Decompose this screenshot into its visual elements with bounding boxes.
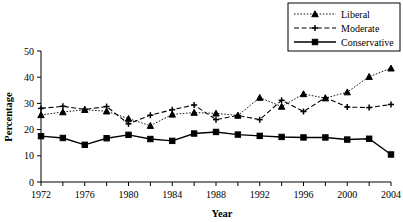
data-point (148, 136, 153, 141)
x-axis-label: Year (212, 208, 233, 219)
data-point (60, 109, 66, 115)
series-line (41, 132, 391, 155)
data-point (191, 131, 196, 136)
data-point (147, 122, 153, 128)
x-tick-label: 2000 (337, 189, 357, 200)
data-point (345, 137, 350, 142)
legend-marker (312, 39, 317, 44)
x-tick-label: 2004 (381, 189, 401, 200)
data-point (213, 110, 219, 116)
data-point (323, 135, 328, 140)
chart-container: 01020304050 1972197619801984198819921996… (0, 0, 403, 222)
y-tick-label: 0 (29, 177, 34, 188)
data-point (235, 132, 240, 137)
x-tick-label: 1976 (75, 189, 95, 200)
y-axis-label: Percentage (3, 92, 14, 142)
data-point (257, 133, 262, 138)
data-point (125, 115, 131, 121)
y-tick-label: 10 (24, 150, 34, 161)
y-tick-label: 20 (24, 124, 34, 135)
data-point (278, 103, 284, 109)
data-point (388, 65, 394, 71)
x-tick-label: 1972 (31, 189, 51, 200)
series-conservative (38, 129, 393, 157)
data-point (344, 89, 350, 95)
y-tick-label: 50 (24, 46, 34, 57)
data-point (301, 135, 306, 140)
data-point (170, 138, 175, 143)
chart-legend: LiberalModerateConservative (288, 3, 400, 51)
data-point (60, 135, 65, 140)
data-point (388, 152, 393, 157)
data-point (366, 136, 371, 141)
data-series-group (38, 65, 394, 157)
data-point (279, 134, 284, 139)
y-tick-label: 30 (24, 98, 34, 109)
legend-label: Liberal (341, 9, 370, 20)
data-point (38, 133, 43, 138)
data-point (257, 94, 263, 100)
x-axis: 197219761980198419881992199620002004 (31, 182, 401, 200)
data-point (38, 112, 44, 118)
x-tick-label: 1980 (119, 189, 139, 200)
data-point (126, 132, 131, 137)
data-point (300, 91, 306, 97)
y-tick-label: 40 (24, 72, 34, 83)
data-point (366, 73, 372, 79)
data-point (104, 136, 109, 141)
x-tick-label: 1996 (294, 189, 314, 200)
data-point (82, 142, 87, 147)
data-point (213, 129, 218, 134)
legend-label: Conservative (341, 37, 394, 48)
x-tick-label: 1984 (162, 189, 182, 200)
legend-label: Moderate (341, 23, 380, 34)
line-chart: 01020304050 1972197619801984198819921996… (0, 0, 403, 222)
x-tick-label: 1988 (206, 189, 226, 200)
x-tick-label: 1992 (250, 189, 270, 200)
